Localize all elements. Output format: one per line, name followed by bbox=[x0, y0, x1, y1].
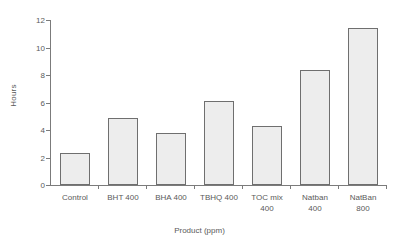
x-tick-label: BHT 400 bbox=[96, 192, 150, 203]
x-tick-label: BHA 400 bbox=[144, 192, 198, 203]
bar bbox=[108, 118, 138, 185]
x-tick-mark bbox=[290, 185, 291, 189]
y-axis-ticks: 024681012 bbox=[24, 14, 50, 185]
bar bbox=[156, 133, 186, 185]
y-tick-label: 10 bbox=[36, 43, 45, 52]
y-tick-label: 8 bbox=[41, 71, 45, 80]
x-tick-mark bbox=[194, 185, 195, 189]
bar-chart: Hours 024681012 ControlBHT 400BHA 400TBH… bbox=[0, 0, 399, 245]
y-axis-title: Hours bbox=[2, 0, 24, 190]
bar-slot bbox=[243, 20, 291, 185]
bar-slot bbox=[147, 20, 195, 185]
bar-slot bbox=[51, 20, 99, 185]
bar-slot bbox=[291, 20, 339, 185]
x-tick-label: Control bbox=[48, 192, 102, 203]
x-tick-label: TOC mix 400 bbox=[240, 192, 294, 214]
bar-slot bbox=[195, 20, 243, 185]
bar-slot bbox=[339, 20, 387, 185]
bar bbox=[60, 153, 90, 185]
x-axis-labels: ControlBHT 400BHA 400TBHQ 400TOC mix 400… bbox=[51, 192, 387, 226]
x-tick-mark bbox=[242, 185, 243, 189]
x-tick-label: TBHQ 400 bbox=[192, 192, 246, 203]
y-tick-label: 2 bbox=[41, 153, 45, 162]
y-tick-label: 0 bbox=[41, 181, 45, 190]
y-tick-label: 6 bbox=[41, 98, 45, 107]
plot-area: 024681012 bbox=[24, 14, 388, 192]
y-tick-label: 4 bbox=[41, 126, 45, 135]
bar-slot bbox=[99, 20, 147, 185]
x-tick-mark bbox=[98, 185, 99, 189]
x-tick-mark bbox=[338, 185, 339, 189]
bar bbox=[204, 101, 234, 185]
bars-container bbox=[51, 20, 387, 185]
x-tick-label: Natban 400 bbox=[288, 192, 342, 214]
y-tick-label: 12 bbox=[36, 16, 45, 25]
x-tick-mark bbox=[146, 185, 147, 189]
x-axis-title: Product (ppm) bbox=[0, 226, 399, 235]
x-axis-line bbox=[50, 185, 387, 186]
bar bbox=[300, 70, 330, 186]
bar bbox=[348, 28, 378, 185]
x-tick-mark bbox=[386, 185, 387, 189]
y-axis-title-label: Hours bbox=[9, 84, 18, 106]
bar bbox=[252, 126, 282, 185]
x-tick-label: NatBan 800 bbox=[336, 192, 390, 214]
